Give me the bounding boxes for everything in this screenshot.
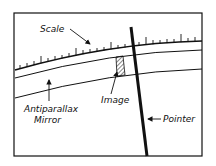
label-mirror-line1: Antiparallax	[23, 104, 79, 114]
label-pointer: Pointer	[163, 114, 196, 124]
label-mirror-line2: Mirror	[34, 115, 62, 125]
scale-arc	[15, 41, 202, 70]
mirror-top-edge	[15, 50, 202, 78]
pointer-image-reflection	[116, 56, 125, 76]
diagram-frame	[14, 13, 202, 156]
label-image: Image	[101, 95, 130, 105]
label-scale: Scale	[40, 24, 65, 34]
meter-diagram: Scale Antiparallax Mirror Image Pointer	[0, 0, 216, 166]
scale-leader-arrow	[70, 29, 90, 44]
image-leader-arrow	[111, 72, 117, 94]
pointer-needle	[131, 27, 147, 156]
mirror-bottom-edge	[15, 69, 202, 98]
